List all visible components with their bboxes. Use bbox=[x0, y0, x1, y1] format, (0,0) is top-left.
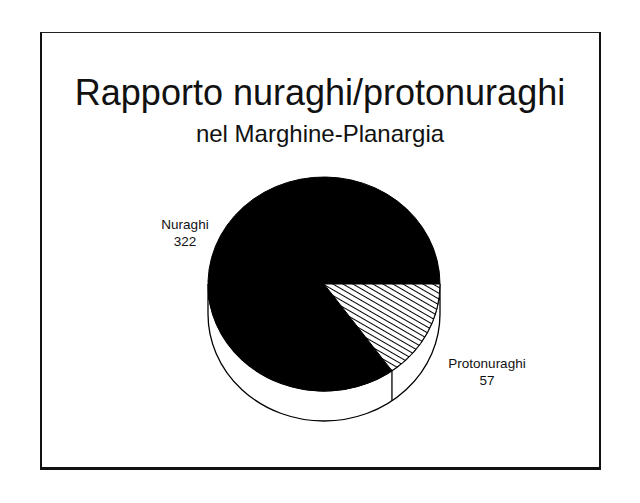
label-protonuraghi-value: 57 bbox=[432, 372, 542, 389]
label-protonuraghi: Protonuraghi 57 bbox=[432, 355, 542, 389]
pie-chart bbox=[0, 0, 640, 503]
label-nuraghi-name: Nuraghi bbox=[150, 216, 220, 233]
label-protonuraghi-name: Protonuraghi bbox=[432, 355, 542, 372]
label-nuraghi-value: 322 bbox=[150, 233, 220, 250]
label-nuraghi: Nuraghi 322 bbox=[150, 216, 220, 250]
